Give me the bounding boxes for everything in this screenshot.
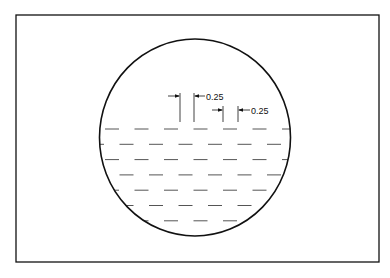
dimension-2: 0.25 (212, 106, 269, 123)
dimension-1: 0.25 (168, 92, 224, 123)
dimension-label: 0.25 (251, 106, 269, 116)
arrow-left-icon (238, 108, 243, 111)
dimension-label: 0.25 (206, 92, 224, 102)
arrow-right-icon (175, 94, 180, 97)
arrow-right-icon (218, 108, 223, 111)
frame-border (16, 15, 379, 262)
diagram-canvas: 0.25 0.25 (0, 0, 390, 278)
arrow-left-icon (194, 94, 199, 97)
dash-pattern (31, 129, 311, 221)
field-circle (100, 39, 291, 236)
